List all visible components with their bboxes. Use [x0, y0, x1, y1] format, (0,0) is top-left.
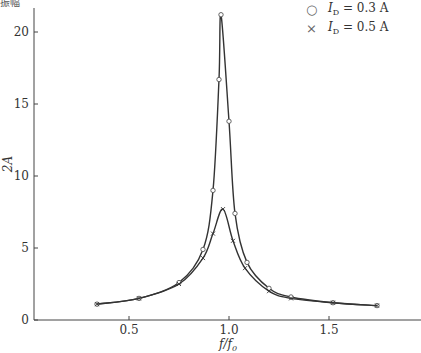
y-tick-label: 10: [14, 169, 29, 183]
circle-marker-icon: [211, 188, 215, 192]
series-0.3A: [95, 13, 379, 308]
series-line: [97, 14, 377, 306]
x-tick-label: 1.5: [319, 323, 338, 337]
chart-canvas: 05101520 0.51.01.5 2A f/f0: [0, 0, 421, 353]
x-ticks: 0.51.01.5: [119, 316, 338, 337]
y-axis-label: 2A: [1, 156, 15, 174]
legend-label: ID = 0.3 A: [328, 1, 388, 17]
x-tick-label: 0.5: [119, 323, 138, 337]
axes: [34, 8, 421, 320]
series-group: [95, 13, 379, 308]
y-tick-label: 20: [14, 25, 29, 39]
series-0.5A: [95, 207, 379, 307]
circle-marker-icon: [233, 211, 237, 215]
circle-marker-icon: [245, 260, 249, 264]
legend-label: ID = 0.5 A: [328, 20, 388, 36]
cross-marker-icon: ×: [306, 21, 328, 36]
x-tick-label: 1.0: [219, 323, 238, 337]
cross-marker-icon: [243, 266, 247, 270]
circle-marker-icon: [227, 119, 231, 123]
circle-marker-icon: [217, 77, 221, 81]
legend: ○ ID = 0.3 A × ID = 0.5 A: [306, 0, 388, 38]
legend-item-0.3A: ○ ID = 0.3 A: [306, 0, 388, 19]
y-tick-label: 5: [21, 241, 29, 255]
circle-marker-icon: ○: [306, 2, 328, 17]
x-axis-label: f/f0: [218, 337, 237, 353]
cross-marker-icon: [201, 256, 205, 260]
y-tick-label: 15: [14, 97, 29, 111]
circle-marker-icon: [201, 247, 205, 251]
legend-item-0.5A: × ID = 0.5 A: [306, 19, 388, 38]
corner-caption: 振幅: [0, 0, 20, 9]
y-tick-label: 0: [21, 313, 29, 327]
circle-marker-icon: [219, 13, 223, 17]
